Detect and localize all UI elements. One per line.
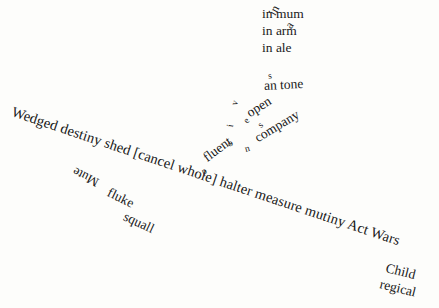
top-stack-block: in mum in arm in ale bbox=[262, 6, 304, 57]
cluster-letter-n: n bbox=[244, 143, 251, 154]
word-fluke: fluke bbox=[105, 186, 136, 211]
cluster-word-an-tone: an tone bbox=[264, 77, 304, 94]
stack-line-arm: in arm bbox=[262, 23, 304, 40]
word-mute: Mute bbox=[70, 164, 101, 189]
main-diagonal-sentence: Wedged destiny shed [cancel whole] halte… bbox=[10, 104, 402, 248]
typographic-canvas: in mum in arm in ale in a s an tone open… bbox=[0, 0, 439, 308]
cluster-letter-v: v bbox=[229, 99, 240, 107]
word-squall: squall bbox=[121, 210, 156, 237]
cluster-letter-i: i bbox=[225, 124, 236, 128]
cluster-word-open: open bbox=[244, 94, 274, 120]
stack-line-ale: in ale bbox=[262, 40, 304, 57]
